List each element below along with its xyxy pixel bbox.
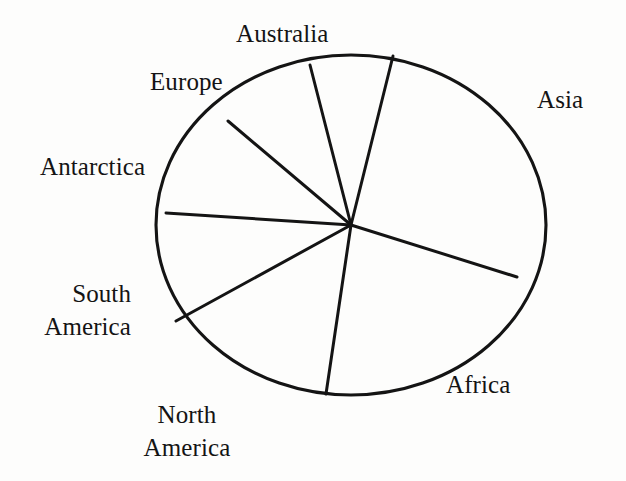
- divider-africa-asia: [351, 225, 517, 277]
- pie-chart-figure: Australia Asia Europe Antarctica South A…: [0, 0, 626, 481]
- pie-label-asia-text: Asia: [537, 86, 583, 113]
- divider-northamerica-africa: [326, 225, 351, 394]
- pie-label-antarctica-text: Antarctica: [40, 153, 145, 180]
- pie-label-south-america-line1: South: [28, 277, 131, 310]
- divider-australia-europe: [310, 65, 351, 225]
- divider-antarctica-southamerica: [166, 213, 351, 225]
- divider-southamerica-northamerica: [176, 225, 351, 321]
- divider-asia-australia: [351, 56, 393, 225]
- pie-label-asia: Asia: [537, 83, 583, 116]
- pie-label-antarctica: Antarctica: [40, 150, 145, 183]
- pie-label-australia-text: Australia: [236, 20, 329, 47]
- pie-label-south-america: South America: [28, 277, 131, 343]
- pie-label-africa: Africa: [446, 368, 510, 401]
- pie-label-australia: Australia: [236, 17, 329, 50]
- pie-chart-svg: [0, 0, 626, 481]
- pie-label-north-america-line1: North: [131, 398, 243, 431]
- pie-label-north-america: North America: [131, 398, 243, 464]
- pie-slice-divider-group: [166, 56, 517, 394]
- pie-label-south-america-line2: America: [28, 310, 131, 343]
- pie-label-africa-text: Africa: [446, 371, 510, 398]
- pie-label-europe: Europe: [150, 65, 223, 98]
- divider-europe-antarctica: [228, 121, 351, 225]
- pie-label-north-america-line2: America: [131, 431, 243, 464]
- pie-label-europe-text: Europe: [150, 68, 223, 95]
